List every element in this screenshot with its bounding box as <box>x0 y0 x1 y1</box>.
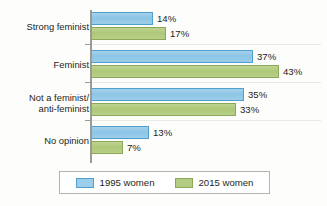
bar-row-1995: 35% <box>92 88 267 101</box>
category-label: No opinion <box>0 135 89 146</box>
bar-2015[interactable] <box>92 141 123 154</box>
category-label: Not a feminist/ anti-feminist <box>0 92 89 115</box>
bar-1995[interactable] <box>92 12 153 25</box>
bar-value-2015: 17% <box>170 28 189 39</box>
bar-value-1995: 35% <box>248 89 267 100</box>
bar-2015[interactable] <box>92 27 166 40</box>
bar-chart: Strong feminist 14% 17% Feminist 37% <box>0 0 327 206</box>
bar-value-1995: 14% <box>157 13 176 24</box>
bar-row-2015: 33% <box>92 103 259 116</box>
bar-1995[interactable] <box>92 88 244 101</box>
bar-2015[interactable] <box>92 65 279 78</box>
bar-1995[interactable] <box>92 126 149 139</box>
bar-group: Feminist 37% 43% <box>0 46 327 84</box>
bar-row-2015: 17% <box>92 27 189 40</box>
bar-pair: 37% 43% <box>92 46 327 84</box>
bar-value-2015: 43% <box>283 66 302 77</box>
legend-swatch-icon <box>175 178 193 188</box>
bar-value-2015: 7% <box>127 142 141 153</box>
bar-pair: 35% 33% <box>92 84 327 122</box>
bar-group: No opinion 13% 7% <box>0 122 327 160</box>
bar-2015[interactable] <box>92 103 236 116</box>
bar-group: Not a feminist/ anti-feminist 35% 33% <box>0 84 327 122</box>
bar-pair: 14% 17% <box>92 8 327 46</box>
chart-legend: 1995 women 2015 women <box>59 171 270 194</box>
legend-swatch-icon <box>76 178 94 188</box>
plot-area: Strong feminist 14% 17% Feminist 37% <box>0 0 327 168</box>
bar-value-1995: 13% <box>153 127 172 138</box>
bar-value-1995: 37% <box>257 51 276 62</box>
category-label: Strong feminist <box>0 21 89 32</box>
bar-row-2015: 7% <box>92 141 141 154</box>
legend-item-2015[interactable]: 2015 women <box>175 177 254 188</box>
legend-label: 2015 women <box>199 177 254 188</box>
legend-label: 1995 women <box>100 177 155 188</box>
bar-group: Strong feminist 14% 17% <box>0 8 327 46</box>
bar-row-1995: 14% <box>92 12 176 25</box>
bar-row-1995: 37% <box>92 50 276 63</box>
bar-1995[interactable] <box>92 50 253 63</box>
legend-item-1995[interactable]: 1995 women <box>76 177 155 188</box>
category-label: Feminist <box>0 59 89 70</box>
bar-value-2015: 33% <box>240 104 259 115</box>
bar-row-2015: 43% <box>92 65 302 78</box>
bar-pair: 13% 7% <box>92 122 327 160</box>
bar-row-1995: 13% <box>92 126 172 139</box>
